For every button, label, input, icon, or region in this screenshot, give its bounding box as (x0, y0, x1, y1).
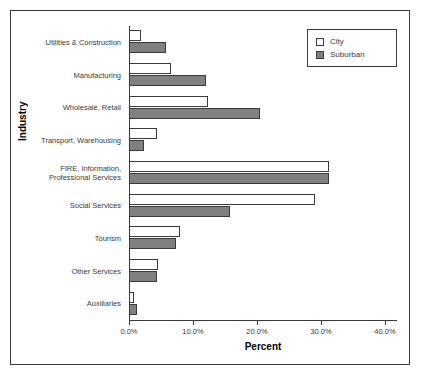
bar-suburban[interactable] (129, 42, 166, 53)
x-tick-mark (129, 321, 130, 325)
x-tick-mark (193, 321, 194, 325)
bar-city[interactable] (129, 259, 158, 270)
bar-suburban[interactable] (129, 75, 206, 86)
x-tick-label: 30.0% (310, 327, 331, 336)
x-tick-mark (257, 321, 258, 325)
chart-legend: City Suburban (307, 29, 397, 67)
legend-item-suburban[interactable]: Suburban (316, 50, 388, 59)
bar-suburban[interactable] (129, 238, 176, 249)
bar-group (129, 226, 385, 250)
legend-swatch-suburban-icon (316, 51, 324, 59)
bar-city[interactable] (129, 63, 171, 74)
bar-suburban[interactable] (129, 304, 137, 315)
legend-swatch-city-icon (316, 38, 324, 46)
bar-suburban[interactable] (129, 108, 260, 119)
bar-city[interactable] (129, 161, 329, 172)
bar-group (129, 161, 385, 185)
bar-city[interactable] (129, 194, 315, 205)
category-label: Auxiliaries (11, 299, 121, 308)
category-label: Utilities & Construction (11, 38, 121, 47)
x-tick-label: 10.0% (182, 327, 203, 336)
category-label: Tourism (11, 234, 121, 243)
category-label: Manufacturing (11, 71, 121, 80)
bar-suburban[interactable] (129, 140, 144, 151)
chart-frame: Utilities & ConstructionManufacturingWho… (10, 10, 410, 365)
category-axis-labels: Utilities & ConstructionManufacturingWho… (11, 26, 125, 320)
bar-group (129, 259, 385, 283)
x-tick-label: 0.0% (120, 327, 137, 336)
x-axis-ticks: 0.0%10.0%20.0%30.0%40.0% (129, 321, 397, 341)
bar-suburban[interactable] (129, 271, 157, 282)
bar-city[interactable] (129, 30, 141, 41)
x-tick-mark (321, 321, 322, 325)
category-label: Social Services (11, 201, 121, 210)
bar-city[interactable] (129, 96, 208, 107)
bar-group (129, 194, 385, 218)
bar-group (129, 128, 385, 152)
bar-city[interactable] (129, 226, 180, 237)
legend-label-suburban: Suburban (330, 50, 365, 59)
category-label: FIRE, Information, Professional Services (11, 164, 121, 182)
x-tick-mark (385, 321, 386, 325)
bar-group (129, 292, 385, 316)
category-label: Other Services (11, 267, 121, 276)
legend-item-city[interactable]: City (316, 37, 388, 46)
bar-city[interactable] (129, 292, 134, 303)
x-tick-label: 40.0% (374, 327, 395, 336)
bar-suburban[interactable] (129, 173, 329, 184)
bar-city[interactable] (129, 128, 157, 139)
bar-group (129, 96, 385, 120)
y-axis-title: Industry (17, 102, 28, 141)
bar-suburban[interactable] (129, 206, 230, 217)
x-axis-title: Percent (129, 341, 397, 352)
plot-area (129, 26, 385, 320)
legend-label-city: City (330, 37, 344, 46)
x-tick-label: 20.0% (246, 327, 267, 336)
